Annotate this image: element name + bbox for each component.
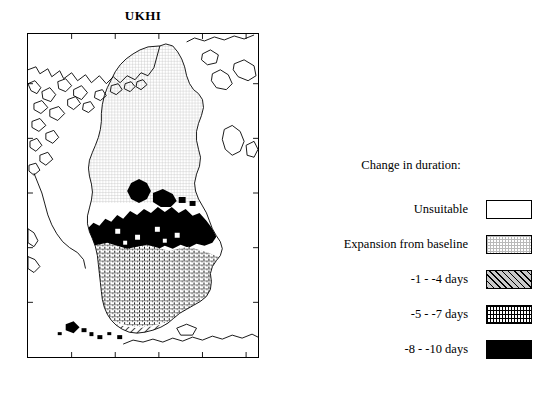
legend-item-minus-8-to-minus-10-days: -8 - -10 days — [296, 339, 532, 359]
finland-map — [28, 34, 258, 357]
legend-label-minus-8-to-minus-10-days: -8 - -10 days — [404, 343, 486, 356]
legend-label-expansion-from-baseline: Expansion from baseline — [344, 238, 486, 251]
legend-swatch-minus-1-to-minus-4-days — [486, 270, 532, 289]
map-panel — [27, 33, 259, 358]
figure-title: UKHI — [27, 8, 259, 24]
legend-item-minus-1-to-minus-4-days: -1 - -4 days — [296, 269, 532, 289]
legend-item-expansion-from-baseline: Expansion from baseline — [296, 234, 532, 254]
legend-item-unsuitable: Unsuitable — [296, 199, 532, 219]
legend-swatch-minus-5-to-minus-7-days — [486, 305, 532, 324]
legend-label-unsuitable: Unsuitable — [414, 203, 486, 216]
legend-label-minus-5-to-minus-7-days: -5 - -7 days — [411, 308, 486, 321]
legend-swatch-minus-8-to-minus-10-days — [486, 340, 532, 359]
legend-swatch-unsuitable — [486, 200, 532, 219]
legend-swatch-expansion-from-baseline — [486, 235, 532, 254]
legend-item-minus-5-to-minus-7-days: -5 - -7 days — [296, 304, 532, 324]
legend: Change in duration: Unsuitable Expansion… — [296, 158, 532, 374]
legend-label-minus-1-to-minus-4-days: -1 - -4 days — [411, 273, 486, 286]
legend-heading: Change in duration: — [318, 158, 504, 173]
